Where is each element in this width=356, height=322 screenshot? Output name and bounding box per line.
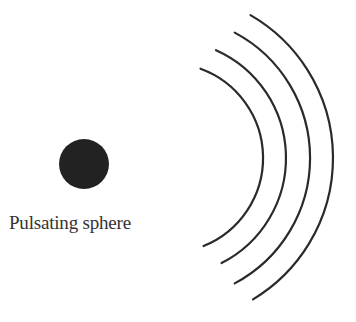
spherical-wavefronts: [201, 15, 333, 299]
wavefront-arc-1: [201, 69, 264, 246]
diagram-canvas: [0, 0, 356, 322]
pulsating-sphere: [59, 139, 109, 189]
sphere-label: Pulsating sphere: [9, 212, 131, 234]
